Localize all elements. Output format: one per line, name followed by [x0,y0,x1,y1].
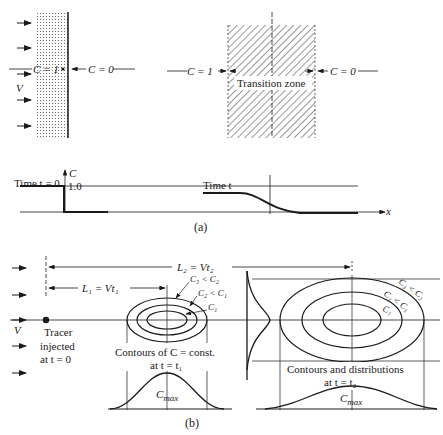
flow-arrows-left [17,23,31,126]
tracer-label-1: Tracer [44,326,73,338]
panel-b-caption: (b) [185,416,199,430]
c1-label-left: C = 1 [33,63,59,75]
c1-label-right: C = 1 [187,65,213,77]
contours-t1-line2: at t = t₁ [150,359,183,371]
panel-a-caption: (a) [194,220,207,234]
x-axis-label: x [385,205,391,217]
l2-label: L₂ = Vt₂ [176,261,214,273]
velocity-label-b: V [14,324,22,336]
time-zero-label: Time t = 0 [14,177,60,189]
step-profile [20,186,108,212]
velocity-label: V [16,82,24,94]
transverse-gaussian [247,271,270,370]
transition-zone-sketch: C = 1 C = 0 Transition zone [167,12,378,138]
contours-t2-line1: Contours and distributions [287,363,404,375]
c-axis-label: C [69,167,77,179]
c3-label-t1: C₃ < C₂ [190,274,219,284]
tracer-label-3: at t = 0 [40,353,71,365]
c1-label-t1: C₁ [208,302,217,312]
c-one-value: 1.0 [68,180,82,192]
c2-label-t1: C₂ < C₁ [198,288,227,298]
transition-zone-label: Transition zone [237,77,305,89]
time-t-label: Time t [203,179,232,191]
l1-label: L₁ = Vt₁ [81,282,119,294]
dispersion-diagram: C = 1 C = 0 V C = 1 C = 0 Transition zon… [0,0,443,435]
tracer-region [37,12,68,138]
tracer-injection-point [43,317,49,323]
smoothed-profile [203,193,358,213]
c0-label-right: C = 0 [330,65,356,77]
tracer-label-2: injected [40,340,75,352]
point-injection-sketch: V Tracer injected at t = 0 L₂ = Vt₂ L₁ =… [10,256,440,430]
cmax-label-t2: Cmax [340,392,362,407]
step-front-sketch: C = 1 C = 0 V [9,12,135,138]
c1-label-t2: C₁ [381,303,393,316]
concentration-profile-plot: x C 1.0 Time t = 0 Time t (a) [14,167,391,234]
c0-label-left: C = 0 [88,63,114,75]
contours-t1-line1: Contours of C = const. [115,346,215,358]
flow-arrows-b [12,268,26,373]
